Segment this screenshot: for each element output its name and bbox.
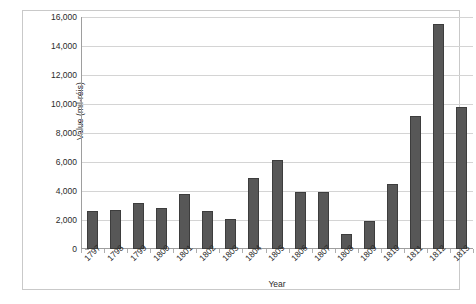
bar[interactable]	[410, 116, 421, 249]
bar[interactable]	[387, 184, 398, 249]
bar-slot	[127, 17, 150, 249]
bar[interactable]	[433, 24, 444, 249]
bar-slot	[81, 17, 104, 249]
chart-frame: Value (mil-réis) 02,0004,0006,0008,00010…	[22, 10, 460, 290]
bar-slot	[381, 17, 404, 249]
y-axis-tick-labels: 02,0004,0006,0008,00010,00012,00014,0001…	[31, 17, 77, 255]
bar-slot	[242, 17, 265, 249]
x-axis-tick-mark	[358, 249, 359, 253]
bar[interactable]	[295, 192, 306, 249]
bar-slot	[450, 17, 473, 249]
x-axis-tick-mark	[104, 249, 105, 253]
bar-slot	[150, 17, 173, 249]
y-axis-tick-label: 8,000	[31, 128, 77, 138]
x-axis-tick-mark	[266, 249, 267, 253]
bar[interactable]	[272, 160, 283, 249]
x-axis-tick-mark	[81, 249, 82, 253]
y-axis-tick-label: 16,000	[31, 12, 77, 22]
bar[interactable]	[179, 194, 190, 249]
x-axis-tick-mark	[450, 249, 451, 253]
x-axis-tick-mark	[381, 249, 382, 253]
bar-slot	[404, 17, 427, 249]
bar[interactable]	[133, 203, 144, 249]
bar-slot	[335, 17, 358, 249]
x-axis-tick-mark	[150, 249, 151, 253]
x-axis-tick-mark	[473, 249, 474, 253]
bar[interactable]	[318, 192, 329, 249]
x-axis-tick-mark	[196, 249, 197, 253]
x-axis-tick-mark	[219, 249, 220, 253]
y-axis-tick-label: 12,000	[31, 70, 77, 80]
x-axis-tick-mark	[335, 249, 336, 253]
bar-slot	[358, 17, 381, 249]
x-axis-tick-mark	[289, 249, 290, 253]
x-axis-tick-mark	[242, 249, 243, 253]
y-axis-tick-label: 14,000	[31, 41, 77, 51]
y-axis-tick-label: 10,000	[31, 99, 77, 109]
y-axis-tick-label: 2,000	[31, 215, 77, 225]
bar[interactable]	[456, 107, 467, 249]
bar-slot	[219, 17, 242, 249]
bar-series	[81, 17, 473, 249]
x-axis-title: Year	[81, 279, 473, 289]
bar-slot	[173, 17, 196, 249]
x-axis-tick-mark	[173, 249, 174, 253]
bar-slot	[196, 17, 219, 249]
x-axis-tick-mark	[427, 249, 428, 253]
y-axis-tick-label: 6,000	[31, 157, 77, 167]
bar-slot	[289, 17, 312, 249]
x-axis-tick-mark	[127, 249, 128, 253]
bar-slot	[312, 17, 335, 249]
y-axis-tick-label: 0	[31, 244, 77, 254]
x-axis-tick-mark	[312, 249, 313, 253]
bar-slot	[104, 17, 127, 249]
x-axis-tick-mark	[404, 249, 405, 253]
bar-slot	[427, 17, 450, 249]
plot-area	[81, 17, 473, 249]
bar[interactable]	[248, 178, 259, 249]
y-axis-tick-label: 4,000	[31, 186, 77, 196]
bar-slot	[266, 17, 289, 249]
